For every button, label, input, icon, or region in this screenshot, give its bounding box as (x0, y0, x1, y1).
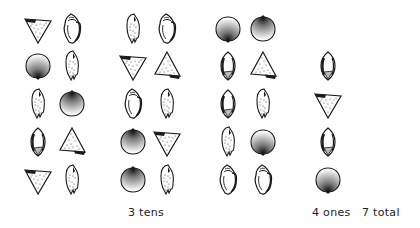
conch-shell-icon (118, 87, 148, 121)
clam-down-shell-icon (213, 12, 243, 46)
olive-shell-icon (248, 87, 278, 121)
clam-down-shell-icon (248, 125, 278, 159)
olive-shell-icon (57, 163, 87, 197)
olive-shell-icon (118, 12, 148, 46)
olive-shell-icon (213, 125, 243, 159)
olive-shell-icon (23, 87, 53, 121)
cone-up-shell-icon (152, 49, 182, 83)
cone-down-shell-icon (118, 49, 148, 83)
conch-shell-icon (248, 163, 278, 197)
cone-down-shell-icon (313, 87, 343, 121)
conch-shell-icon (57, 12, 87, 46)
cowrie-shell-icon (213, 49, 243, 83)
clam-up-shell-icon (57, 87, 87, 121)
clam-down-shell-icon (313, 163, 343, 197)
conch-shell-icon (213, 163, 243, 197)
clam-up-shell-icon (248, 12, 278, 46)
clam-up-shell-icon (118, 163, 148, 197)
conch-shell-icon (152, 12, 182, 46)
cowrie-shell-icon (213, 87, 243, 121)
cowrie-shell-icon (23, 125, 53, 159)
olive-shell-icon (57, 49, 87, 83)
olive-shell-icon (152, 163, 182, 197)
olive-shell-icon (152, 87, 182, 121)
clam-up-shell-icon (118, 125, 148, 159)
ones-label: 4 ones (312, 206, 351, 219)
total-label: 7 total (362, 206, 400, 219)
cone-up-shell-icon (248, 49, 278, 83)
tens-label: 3 tens (128, 206, 164, 219)
cone-down-shell-icon (23, 12, 53, 46)
cowrie-shell-icon (313, 49, 343, 83)
cowrie-shell-icon (313, 125, 343, 159)
cone-down-shell-icon (152, 125, 182, 159)
cone-up-shell-icon (57, 125, 87, 159)
cone-down-shell-icon (23, 163, 53, 197)
clam-down-shell-icon (23, 49, 53, 83)
